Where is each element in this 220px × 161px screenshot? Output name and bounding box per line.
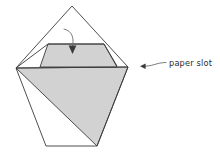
front-layer-shaded (16, 67, 128, 146)
diagram-canvas: paper slot (0, 0, 220, 161)
paper-slot-pointer (140, 63, 166, 70)
paper-slot-label: paper slot (169, 58, 213, 68)
origami-fold-diagram: paper slot (0, 0, 220, 161)
folded-flap-shaded (40, 44, 117, 67)
